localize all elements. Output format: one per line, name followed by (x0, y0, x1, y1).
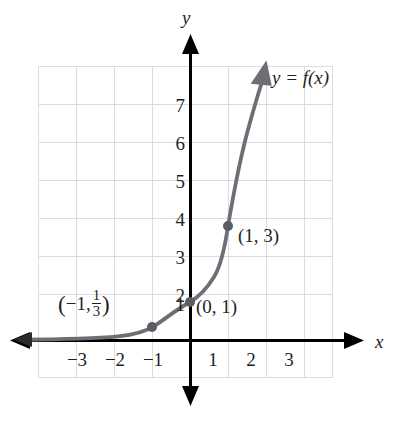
point-1-3 (223, 221, 233, 231)
neg-one-lead: −1, (66, 293, 91, 314)
x-tick-neg3: −3 (62, 350, 92, 369)
y-tick-5: 5 (163, 172, 185, 191)
y-tick-4: 4 (163, 210, 185, 229)
y-axis-top-arrow (182, 34, 199, 54)
y-axis-bottom-arrow (182, 386, 199, 406)
point-label-neg1-third: (−1,13) (58, 288, 110, 319)
point-label-1-3: (1, 3) (238, 226, 279, 245)
fraction-numerator: 1 (92, 288, 101, 304)
x-tick-3: 3 (274, 350, 304, 369)
close-paren: ) (102, 292, 110, 317)
y-tick-6: 6 (163, 134, 185, 153)
point-label-0-1: (0, 1) (196, 297, 237, 316)
y-tick-1: 1 (163, 295, 185, 314)
grid-lines (38, 66, 333, 378)
point-neg1-third (147, 322, 157, 332)
open-paren: ( (58, 292, 66, 317)
y-axis-label: y (182, 8, 190, 27)
x-tick-2: 2 (236, 350, 266, 369)
fraction-denominator: 3 (92, 304, 101, 319)
y-tick-3: 3 (163, 248, 185, 267)
x-axis-right-arrow (344, 332, 364, 349)
function-label: y = f(x) (272, 68, 329, 87)
x-tick-neg2: −2 (100, 350, 130, 369)
y-tick-7: 7 (163, 96, 185, 115)
x-tick-1: 1 (198, 350, 228, 369)
x-tick-neg1: −1 (138, 350, 168, 369)
fraction-one-third: 13 (92, 288, 101, 319)
graph-figure: 7 6 5 4 3 2 1 −3 −2 −1 1 2 3 y x (1, 3) … (0, 0, 398, 425)
x-axis-label: x (375, 332, 383, 351)
point-0-1 (185, 297, 195, 307)
